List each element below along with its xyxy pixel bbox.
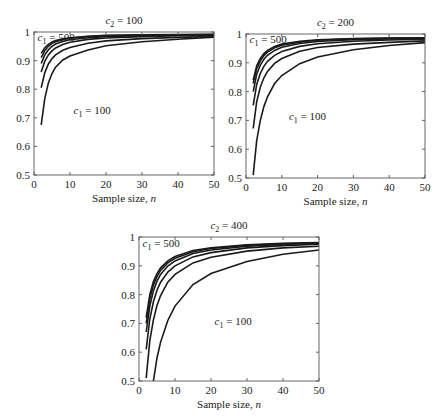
x-tick-label: 10 [65, 178, 77, 190]
x-tick-label: 30 [242, 384, 254, 396]
axes-frame [139, 237, 319, 381]
x-tick-label: 40 [278, 384, 290, 396]
curves [253, 38, 425, 175]
x-tick-label: 0 [136, 384, 142, 396]
curve-annotation: c1 = 500 [143, 237, 181, 252]
y-tick-label: 1 [237, 28, 243, 40]
axes-frame [246, 34, 425, 178]
panel-c2-100: 010203040500.50.60.70.80.91c2 = 100Sampl… [16, 14, 220, 204]
panel-c2-200: 010203040500.50.60.70.80.91c2 = 200Sampl… [228, 16, 431, 207]
x-tick-label: 0 [31, 178, 37, 190]
x-tick-label: 50 [209, 178, 221, 190]
curve-c1150 [253, 41, 425, 129]
y-tick-label: 0.5 [228, 172, 242, 184]
x-tick-label: 40 [173, 178, 185, 190]
y-tick-label: 0.6 [121, 346, 135, 358]
chart-figure: 010203040500.50.60.70.80.91c2 = 100Sampl… [0, 0, 444, 419]
chart-title: c2 = 400 [210, 219, 248, 234]
x-tick-label: 30 [137, 178, 149, 190]
curve-c1100 [41, 37, 214, 125]
y-tick-label: 0.7 [16, 112, 30, 124]
panel-c2-400: 010203040500.50.60.70.80.91c2 = 400Sampl… [121, 219, 325, 410]
x-axis-label: Sample size, n [197, 398, 261, 410]
y-tick-label: 1 [130, 231, 136, 243]
y-tick-label: 0.6 [228, 143, 242, 155]
y-tick-label: 0.7 [228, 114, 242, 126]
x-tick-label: 40 [384, 181, 396, 193]
x-axis-label: Sample size, n [92, 192, 156, 204]
curves [146, 243, 319, 382]
x-tick-label: 50 [314, 384, 326, 396]
y-tick-label: 0.5 [121, 375, 135, 387]
y-tick-label: 0.5 [16, 169, 30, 181]
y-tick-label: 0.9 [121, 260, 135, 272]
curve-annotation: c1 = 100 [289, 110, 327, 125]
y-tick-label: 0.9 [228, 57, 242, 69]
curve-annotation: c1 = 100 [74, 104, 112, 119]
y-tick-label: 0.6 [16, 140, 30, 152]
y-tick-label: 0.8 [228, 86, 242, 98]
x-tick-label: 10 [276, 181, 288, 193]
y-tick-label: 0.9 [16, 55, 30, 67]
x-tick-label: 10 [170, 384, 182, 396]
x-tick-label: 20 [101, 178, 113, 190]
x-tick-label: 20 [206, 384, 218, 396]
curves [41, 34, 214, 125]
x-tick-label: 0 [243, 181, 249, 193]
axes-frame [34, 32, 214, 175]
chart-title: c2 = 200 [317, 16, 355, 31]
x-tick-label: 30 [348, 181, 360, 193]
chart-title: c2 = 100 [105, 14, 143, 29]
curve-annotation: c1 = 100 [215, 315, 253, 330]
y-tick-label: 0.8 [16, 83, 30, 95]
x-axis-label: Sample size, n [304, 195, 368, 207]
y-tick-label: 0.8 [121, 289, 135, 301]
curve-c1150 [41, 37, 214, 88]
y-tick-label: 1 [25, 26, 31, 38]
x-tick-label: 20 [312, 181, 324, 193]
y-tick-label: 0.7 [121, 317, 135, 329]
curve-c1100 [253, 43, 425, 176]
x-tick-label: 50 [420, 181, 432, 193]
